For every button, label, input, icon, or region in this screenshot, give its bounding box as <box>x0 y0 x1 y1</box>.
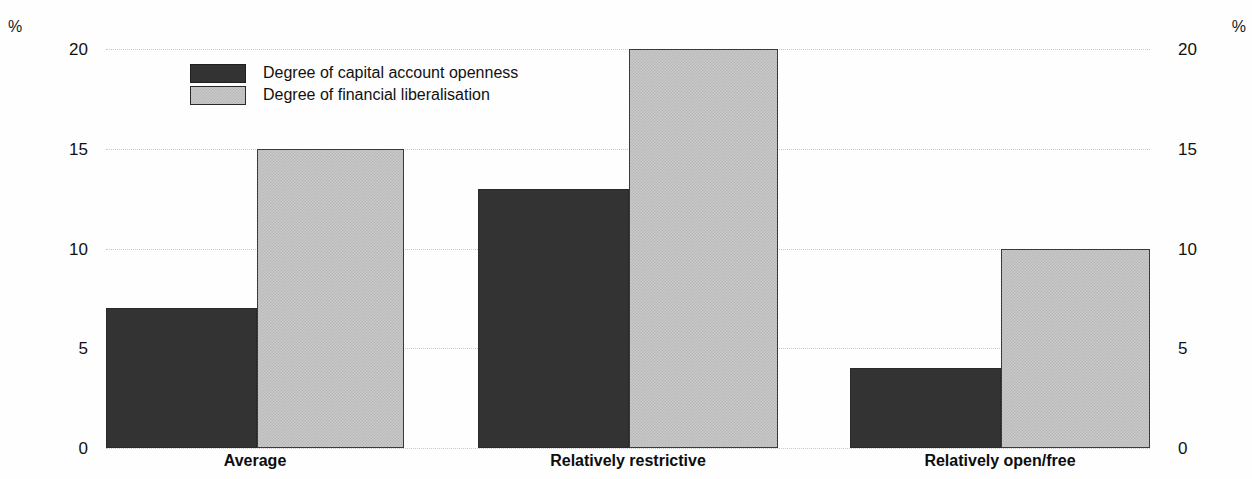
legend-item-label: Degree of financial liberalisation <box>263 86 490 104</box>
y-axis-unit-right: % <box>1232 18 1246 36</box>
light-swatch <box>190 86 246 105</box>
bar-chart-figure: % % 05101520 05101520 AverageRelatively … <box>0 0 1252 479</box>
cropped-title-strip <box>0 0 1252 8</box>
dark-swatch <box>190 64 246 83</box>
y-tick-label-right: 10 <box>1178 241 1197 258</box>
gridline <box>106 49 1150 50</box>
bar <box>1001 249 1150 449</box>
bar <box>106 308 257 448</box>
y-tick-label-right: 5 <box>1178 340 1187 357</box>
bar <box>478 189 629 448</box>
y-tick-label-left: 10 <box>0 241 88 258</box>
bar <box>257 149 404 448</box>
y-tick-label-right: 0 <box>1178 440 1187 457</box>
y-tick-label-right: 15 <box>1178 141 1197 158</box>
bar <box>629 49 778 448</box>
legend-item-label: Degree of capital account openness <box>263 64 518 82</box>
y-tick-label-left: 20 <box>0 41 88 58</box>
legend-item[interactable]: Degree of capital account openness <box>190 62 518 84</box>
x-axis-category-label: Relatively open/free <box>924 452 1075 470</box>
legend-item[interactable]: Degree of financial liberalisation <box>190 84 518 106</box>
y-axis-unit-left: % <box>8 18 22 36</box>
y-tick-label-left: 15 <box>0 141 88 158</box>
plot-area <box>106 49 1150 448</box>
x-axis-category-label: Relatively restrictive <box>550 452 706 470</box>
gridline <box>106 448 1150 449</box>
x-axis-category-label: Average <box>224 452 287 470</box>
y-tick-label-left: 0 <box>0 440 88 457</box>
legend: Degree of capital account opennessDegree… <box>190 62 518 106</box>
y-tick-label-right: 20 <box>1178 41 1197 58</box>
bar <box>850 368 1001 448</box>
y-tick-label-left: 5 <box>0 340 88 357</box>
